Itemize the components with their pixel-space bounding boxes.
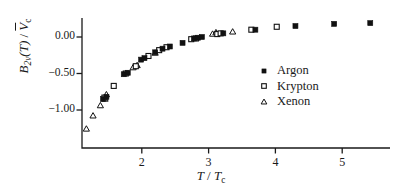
x-tick-label: 2 [122,155,162,170]
x-tick-label: 5 [322,155,362,170]
y-axis-title-text: B2v(T) / Vc [16,19,31,74]
y-axis-title: B2v(T) / Vc [16,0,36,116]
x-axis-title: T / Tc [166,168,256,185]
legend-label: Xenon [272,94,310,110]
legend-item-xenon: Xenon [258,94,319,110]
legend-label: Argon [272,63,309,79]
open-triangle-icon [258,96,272,108]
legend-label: Krypton [272,79,319,95]
x-axis-title-text: T / Tc [197,168,226,183]
data-points [83,21,373,131]
filled-square-icon [258,65,272,77]
series-xenon [83,29,235,131]
axis-lines [82,18,390,148]
x-tick-label: 4 [255,155,295,170]
figure-container: 0.00−0.50−1.00 2345 B2v(T) / Vc T / Tc A… [0,0,397,195]
open-square-icon [258,80,272,92]
legend-item-argon: Argon [258,63,319,79]
legend: ArgonKryptonXenon [258,63,319,110]
series-krypton [102,24,279,100]
series-argon [101,21,373,102]
legend-item-krypton: Krypton [258,79,319,95]
